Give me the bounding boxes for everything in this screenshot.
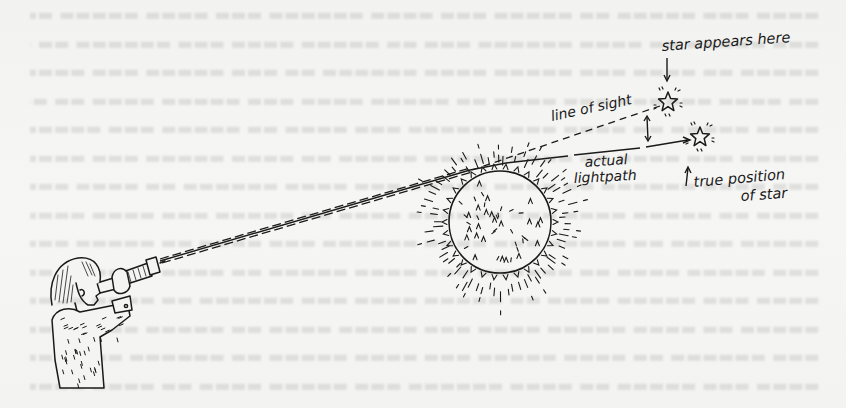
label-of-star: of star [740, 185, 789, 204]
double-arrow-icon [644, 116, 651, 141]
lensing-diagram: star appears here line of sight actual l… [0, 0, 846, 408]
apparent-star-pointer-arrow [664, 58, 670, 81]
apparent-star-icon [654, 87, 682, 116]
true-star-icon [686, 122, 714, 151]
sun [449, 171, 551, 273]
telescope-icon [97, 257, 165, 293]
true-star-pointer-arrow [685, 167, 691, 186]
label-lightpath: lightpath [573, 167, 637, 186]
sun-rays [417, 143, 587, 315]
label-star-appears-here: star appears here [661, 29, 791, 54]
observer-with-telescope [51, 257, 165, 388]
